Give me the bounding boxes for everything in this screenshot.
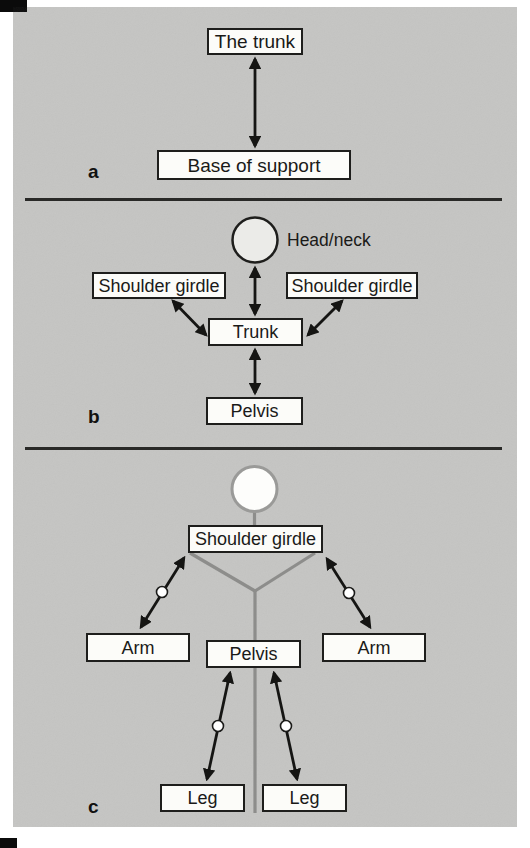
box-shoulder-girdle-right-label: Shoulder girdle [291,277,412,295]
box-arm-left: Arm [86,633,190,662]
box-arm-right-label: Arm [358,639,391,657]
box-trunk-label: Trunk [233,323,278,341]
joint-circle-hip-right [281,721,292,732]
box-shoulder-girdle-c-label: Shoulder girdle [195,530,316,548]
box-arm-left-label: Arm [122,639,155,657]
box-base-of-support: Base of support [157,150,351,180]
panel-separator-ab [25,198,502,201]
box-leg-right: Leg [262,784,347,812]
box-arm-right: Arm [322,633,426,662]
box-leg-left: Leg [160,784,245,812]
box-pelvis-b-label: Pelvis [230,402,278,420]
box-trunk: Trunk [208,318,303,346]
box-the-trunk: The trunk [207,28,303,55]
head-neck-label: Head/neck [287,232,371,250]
panel-separator-bc [25,447,502,450]
panel-label-b: b [88,406,100,428]
box-shoulder-girdle-c: Shoulder girdle [188,525,323,553]
box-shoulder-girdle-left: Shoulder girdle [92,272,226,299]
box-pelvis-c-label: Pelvis [229,645,277,663]
joint-circle-shoulder-left [157,587,168,598]
box-pelvis-b: Pelvis [206,397,303,425]
box-pelvis-c: Pelvis [206,640,301,668]
box-base-of-support-label: Base of support [187,156,320,175]
box-leg-left-label: Leg [187,789,217,807]
panel-label-a: a [88,161,99,183]
box-leg-right-label: Leg [289,789,319,807]
head-circle-panel-c [232,467,277,512]
joint-circle-shoulder-right [344,588,355,599]
joint-circle-hip-left [213,721,224,732]
box-shoulder-girdle-left-label: Shoulder girdle [98,277,219,295]
head-circle-panel-b [233,218,278,263]
box-the-trunk-label: The trunk [215,32,295,51]
panel-label-c: c [88,796,99,818]
figure-page: The trunk Base of support a Head/neck Sh… [0,0,530,848]
box-shoulder-girdle-right: Shoulder girdle [286,272,418,299]
